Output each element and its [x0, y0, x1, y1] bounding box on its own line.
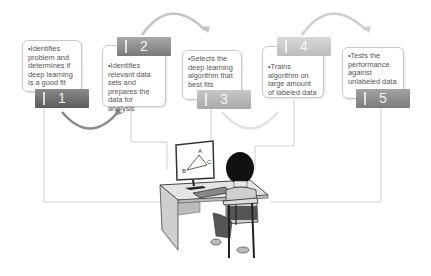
step-1-number: 1 [35, 89, 89, 108]
person-illustration [211, 152, 258, 258]
svg-text:A: A [198, 148, 202, 154]
step-3-text: •Selects the deep learning algorithm tha… [188, 54, 233, 89]
curved-arrow-4-5 [302, 14, 366, 35]
step-2-number: 2 [117, 37, 171, 56]
svg-text:B: B [182, 168, 186, 174]
svg-text:C: C [207, 159, 212, 165]
connector-step-2 [131, 108, 167, 170]
step-5-number: 5 [356, 89, 410, 108]
step-4-number: 4 [277, 37, 331, 56]
connector-step-5 [270, 108, 381, 202]
curved-arrow-2-3 [142, 14, 205, 35]
step-3-tab: 3 [197, 90, 251, 109]
connector-step-4 [255, 100, 294, 170]
step-5-text: •Tests the performance against unlabeled… [348, 51, 397, 86]
step-4-text: •Trains algorithm on large amount of lab… [268, 62, 317, 97]
step-2-text: •Identifies relevant data sets and prepa… [108, 61, 151, 113]
step-1-tab: 1 [35, 89, 89, 108]
step-3-number: 3 [197, 90, 251, 109]
diagram-canvas: A B C •Identifies problem and determines… [0, 0, 431, 276]
curved-arrow-1-2 [62, 112, 118, 129]
step-5-tab: 5 [356, 89, 410, 108]
step-1-text: •Identifies problem and determines if de… [28, 44, 73, 87]
step-1-box: •Identifies problem and determines if de… [22, 40, 82, 92]
step-4-tab: 4 [277, 37, 331, 56]
curved-arrow-3-4 [222, 112, 278, 129]
step-2-tab: 2 [117, 37, 171, 56]
